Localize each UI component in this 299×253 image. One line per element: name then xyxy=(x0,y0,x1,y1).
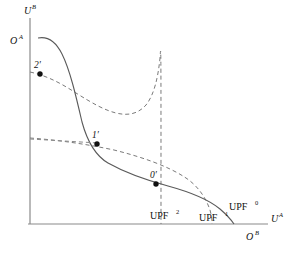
curve-upf1 xyxy=(30,138,212,224)
point-2-prime-label: 2′ xyxy=(34,60,42,70)
y-axis-label-base: U xyxy=(24,5,32,16)
x-axis-label-sup: A xyxy=(278,211,283,218)
point-1-prime xyxy=(94,141,99,146)
point-2-prime xyxy=(37,71,42,76)
marked-points-group xyxy=(37,71,158,186)
origin-a-label: O A xyxy=(10,33,23,46)
origin-b-label: O B xyxy=(246,229,259,242)
x-axis-label-base: U xyxy=(271,213,279,224)
utility-possibility-frontier-figure: 2′ 1′ 0′ U B U A O A O B UPF 0 UPF xyxy=(0,0,299,253)
curve-label-upf1-sup: 1 xyxy=(225,210,228,217)
origin-a-sup: A xyxy=(18,33,23,40)
point-1-prime-label: 1′ xyxy=(92,130,100,140)
curve-label-upf1-base: UPF xyxy=(199,212,218,223)
axes-group xyxy=(28,18,268,224)
origin-a-base: O xyxy=(10,35,17,46)
point-0-prime xyxy=(153,181,158,186)
curve-upf0 xyxy=(38,38,234,224)
origin-b-base: O xyxy=(246,231,253,242)
origin-b-sup: B xyxy=(255,229,259,236)
y-axis-label: U B xyxy=(24,3,36,16)
curve-label-upf2-base: UPF xyxy=(150,210,169,221)
curve-label-upf0-base: UPF xyxy=(229,201,248,212)
y-axis-label-sup: B xyxy=(32,3,36,10)
curve-label-upf2-sup: 2 xyxy=(176,208,179,215)
curve-label-upf0-sup: 0 xyxy=(255,199,258,206)
chart-svg: 2′ 1′ 0′ U B U A O A O B UPF 0 UPF xyxy=(0,0,299,253)
curve-label-upf0: UPF 0 xyxy=(229,199,258,212)
point-0-prime-label: 0′ xyxy=(150,170,158,180)
curve-label-upf2: UPF 2 xyxy=(150,208,179,221)
x-axis-label: U A xyxy=(271,211,283,224)
